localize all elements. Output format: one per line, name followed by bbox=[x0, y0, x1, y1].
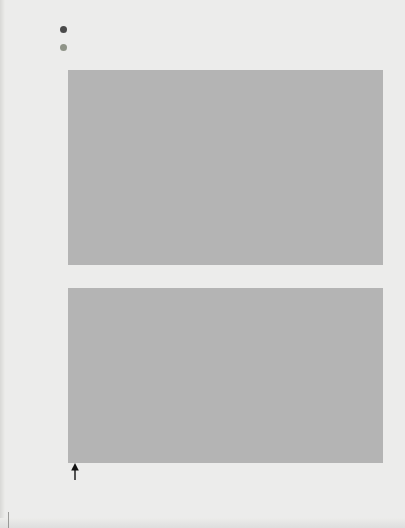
page-edge-bottom bbox=[0, 518, 405, 528]
plot-area-food-intake bbox=[68, 288, 383, 463]
chart-food-intake bbox=[68, 288, 383, 463]
chart-legend bbox=[60, 22, 73, 58]
plot-area-body-weight bbox=[68, 70, 383, 265]
legend-marker-control bbox=[60, 44, 67, 51]
chart-body-weight bbox=[68, 70, 383, 265]
figure-page bbox=[0, 0, 405, 528]
food-intake-svg bbox=[68, 288, 383, 463]
page-rule-mark bbox=[8, 512, 9, 528]
legend-marker-lesioned bbox=[60, 26, 67, 33]
page-edge-left bbox=[0, 0, 5, 528]
legend-item-lesioned bbox=[60, 22, 73, 37]
operation-arrow-icon bbox=[68, 463, 82, 481]
legend-item-control bbox=[60, 40, 73, 55]
body-weight-svg bbox=[68, 70, 383, 265]
